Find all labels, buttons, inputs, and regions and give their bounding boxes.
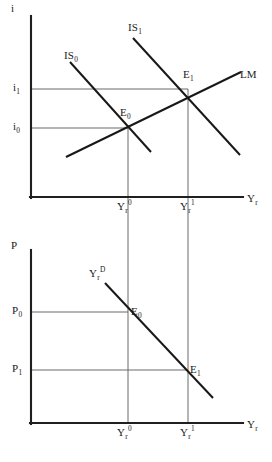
ad-equilibrium-e1: E1 (190, 364, 201, 375)
is-lm-ytick-i1-sub: 1 (16, 87, 20, 96)
is-lm-xtick-yr1-base: Y (180, 200, 188, 212)
figure-canvas (0, 0, 272, 462)
curve-label-is1: IS1 (128, 22, 142, 33)
ad-equilibrium-e0-base: E (131, 305, 138, 317)
ad-equilibrium-e0: E0 (131, 306, 142, 317)
is-lm-equilibrium-e1: E1 (183, 69, 194, 80)
ad-x-axis-label-base: Y (247, 418, 255, 430)
curve-label-is0-sub: 0 (74, 55, 78, 64)
curve-is1 (133, 38, 240, 155)
curve-is0 (70, 62, 151, 152)
is-lm-xtick-yr0: Yr0 (117, 201, 131, 212)
ad-ytick-p0: P0 (12, 305, 22, 316)
is-lm-xtick-yr0-base: Y (117, 200, 125, 212)
ad-x-axis-label: Yr (247, 419, 258, 430)
ad-x-axis-label-sub: r (255, 424, 258, 433)
ad-ytick-p1-sub: 1 (18, 368, 22, 377)
is-lm-equilibrium-e0: E0 (120, 107, 131, 118)
economics-figure: i Yr i1 i0 IS0 IS1 LM E0 E1 Yr0 Yr1 P Yr… (0, 0, 272, 462)
is-lm-equilibrium-e0-base: E (120, 106, 127, 118)
ad-y-axis-label: P (11, 240, 17, 251)
curve-label-yr-demand-sup: D (100, 265, 105, 274)
is-lm-x-axis-label: Yr (247, 193, 258, 204)
is-lm-xtick-yr1-sup: 1 (191, 198, 195, 207)
is-lm-equilibrium-e1-base: E (183, 68, 190, 80)
ad-xtick-yr1: Yr1 (180, 427, 194, 438)
is-lm-xtick-yr0-sup: 0 (128, 198, 132, 207)
curve-label-is1-base: IS (128, 21, 138, 33)
ad-equilibrium-e0-sub: 0 (138, 311, 142, 320)
is-lm-ytick-i0-sub: 0 (16, 126, 20, 135)
ad-xtick-yr1-sup: 1 (191, 424, 195, 433)
ad-xtick-yr0: Yr0 (117, 427, 131, 438)
is-lm-xtick-yr1: Yr1 (180, 201, 194, 212)
is-lm-x-axis-label-base: Y (247, 192, 255, 204)
curve-label-yr-demand-base: Y (89, 267, 97, 279)
ad-ytick-p0-sub: 0 (18, 310, 22, 319)
curve-lm (66, 72, 241, 157)
is-lm-x-axis-label-sub: r (255, 198, 258, 207)
is-lm-equilibrium-e1-sub: 1 (190, 74, 194, 83)
is-lm-y-axis-label: i (11, 3, 14, 14)
curve-label-lm: LM (240, 69, 257, 80)
curve-yr-demand (105, 283, 213, 398)
is-lm-ytick-i0: i0 (13, 121, 20, 132)
ad-ytick-p1: P1 (12, 363, 22, 374)
ad-xtick-yr1-base: Y (180, 426, 188, 438)
curve-label-is0: IS0 (64, 50, 78, 61)
curve-label-is1-sub: 1 (138, 27, 142, 36)
is-lm-ytick-i1: i1 (13, 82, 20, 93)
ad-equilibrium-e1-sub: 1 (197, 369, 201, 378)
curve-label-is0-base: IS (64, 49, 74, 61)
ad-equilibrium-e1-base: E (190, 363, 197, 375)
curve-label-yr-demand: YrD (89, 268, 105, 279)
is-lm-panel (30, 16, 243, 198)
is-lm-equilibrium-e0-sub: 0 (127, 112, 131, 121)
ad-xtick-yr0-base: Y (117, 426, 125, 438)
ad-xtick-yr0-sup: 0 (128, 424, 132, 433)
